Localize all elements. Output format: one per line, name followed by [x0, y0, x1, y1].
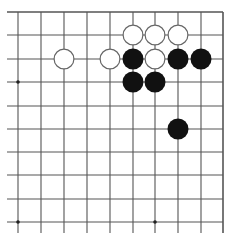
white-stone [123, 25, 143, 45]
white-stone [54, 49, 74, 69]
white-stone [168, 25, 188, 45]
black-stone [191, 49, 212, 70]
black-stone [123, 49, 144, 70]
black-stone [168, 119, 189, 140]
white-stone [100, 49, 120, 69]
star-point [153, 220, 157, 224]
black-stone [168, 49, 189, 70]
white-stone [145, 49, 165, 69]
black-stone [123, 72, 144, 93]
grid-lines [7, 12, 223, 233]
star-point [16, 220, 20, 224]
go-board [0, 0, 230, 243]
black-stone [145, 72, 166, 93]
white-stone [145, 25, 165, 45]
star-point [16, 80, 20, 84]
